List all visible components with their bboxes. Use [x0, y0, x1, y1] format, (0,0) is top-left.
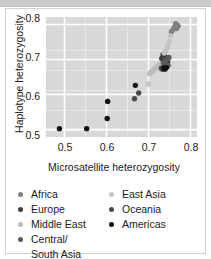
y-axis-title: Haplotype heterozygosity [12, 14, 26, 134]
data-point [168, 33, 173, 38]
legend-item-middle-east[interactable]: Middle East [18, 217, 108, 232]
series-africa [169, 21, 181, 34]
legend-item-central-south-asia[interactable]: Central/ [18, 232, 108, 247]
legend-label-africa: Africa [31, 187, 108, 202]
data-point [132, 96, 137, 101]
legend-dot-africa [18, 192, 23, 197]
data-point [162, 50, 167, 55]
legend-dot-oceania [109, 207, 114, 212]
legend-item-africa[interactable]: Africa [18, 187, 108, 202]
data-point [146, 81, 151, 86]
scatter-plot: Haplotype heterozygosity 0.8 0.7 0.6 0.5 [6, 9, 207, 181]
x-tick-label-0.8: 0.8 [178, 141, 204, 153]
legend-label-central-south-asia: Central/ [31, 232, 108, 247]
legend-label-americas: Americas [122, 217, 201, 232]
figure-container: Haplotype heterozygosity 0.8 0.7 0.6 0.5 [0, 0, 211, 259]
legend-label-central-south-asia-line2: South Asia [31, 247, 108, 259]
chart-legend: Africa Europe Middle East Central/ South… [6, 187, 207, 253]
legend-label-middle-east: Middle East [31, 217, 108, 232]
legend-label-oceania: Oceania [122, 202, 201, 217]
plot-canvas [46, 17, 197, 137]
data-point [136, 90, 141, 95]
x-tick-label-0.5: 0.5 [52, 141, 78, 153]
data-point [147, 71, 152, 76]
legend-item-east-asia[interactable]: East Asia [109, 187, 201, 202]
x-axis-title: Microsatellite heterozygosity [24, 161, 204, 173]
data-point [174, 26, 179, 31]
figure-card: Haplotype heterozygosity 0.8 0.7 0.6 0.5 [5, 8, 206, 254]
legend-dot-central-south-asia [18, 237, 23, 242]
y-tick-label-0.7: 0.7 [14, 51, 40, 63]
top-banner-strip [0, 0, 211, 7]
data-point [133, 83, 138, 88]
legend-dot-americas [109, 222, 114, 227]
y-tick-label-0.6: 0.6 [14, 90, 40, 102]
data-point [105, 99, 110, 104]
legend-item-oceania[interactable]: Oceania [109, 202, 201, 217]
legend-column-right: East Asia Oceania Americas [109, 187, 201, 232]
legend-label-europe: Europe [31, 202, 108, 217]
y-tick-label-0.8: 0.8 [14, 12, 40, 24]
y-tick-label-0.5: 0.5 [14, 129, 40, 141]
legend-item-europe[interactable]: Europe [18, 202, 108, 217]
minor-gridlines [46, 17, 197, 137]
data-point [105, 116, 110, 121]
legend-label-east-asia: East Asia [122, 187, 201, 202]
data-point [57, 126, 62, 131]
legend-dot-east-asia [109, 192, 114, 197]
data-point [84, 126, 89, 131]
x-tick-label-0.6: 0.6 [94, 141, 120, 153]
plot-panel [46, 17, 197, 137]
major-gridlines [46, 17, 197, 137]
data-point [164, 65, 169, 70]
legend-dot-middle-east [18, 222, 23, 227]
legend-column-left: Africa Europe Middle East Central/ South… [18, 187, 108, 259]
x-tick-label-0.7: 0.7 [136, 141, 162, 153]
legend-dot-europe [18, 207, 23, 212]
legend-item-americas[interactable]: Americas [109, 217, 201, 232]
series-americas [57, 65, 169, 131]
legend-item-central-south-asia-line2: South Asia [18, 247, 108, 259]
data-points-layer [57, 21, 181, 131]
